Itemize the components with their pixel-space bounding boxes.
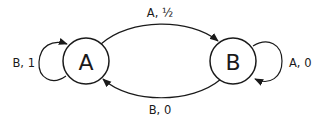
state-b-label: B	[225, 50, 240, 75]
state-a-label: A	[78, 50, 93, 75]
transition-b-to-a-label: B, 0	[149, 103, 172, 117]
transition-a-to-b	[101, 24, 218, 44]
self-loop-b-label: A, 0	[289, 56, 312, 70]
transition-a-to-b-label: A, ½	[147, 6, 173, 20]
self-loop-a-label: B, 1	[12, 56, 35, 70]
state-diagram: A, ½ B, 0 B, 1 A, 0 A B	[0, 0, 324, 125]
state-a: A	[63, 38, 109, 84]
state-b: B	[210, 38, 256, 84]
transition-b-to-a	[103, 79, 221, 98]
self-loop-b	[253, 42, 282, 81]
